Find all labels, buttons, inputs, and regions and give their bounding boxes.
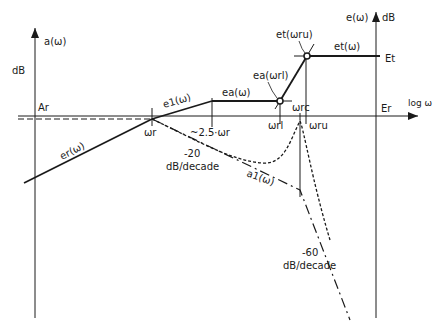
slope-60-value: -60 [302, 247, 318, 258]
omega-2-5-label: ~2.5·ωr [190, 127, 231, 138]
top-level-label: Et [385, 53, 395, 64]
omega-rc-label: ωrc [292, 102, 310, 113]
slope-20-value: -20 [184, 148, 200, 159]
right-axis-label: e(ω) [346, 12, 368, 23]
et-ru-label: et(ωru) [276, 29, 313, 40]
ea-label: ea(ω) [222, 87, 251, 98]
right-reference-label: Er [381, 103, 392, 114]
breakpoint-et-ru [304, 53, 310, 59]
omega-ru-label: ωru [309, 120, 328, 131]
leader-et-ru [299, 41, 305, 53]
breakpoint-ea-rl [277, 98, 283, 104]
diagram-canvas: a(ω) dB Ar e(ω) dB Et Er log ω ωr ~2.5·ω… [0, 0, 444, 334]
left-axis-unit: dB [12, 65, 25, 76]
e1-label: e1(ω) [162, 91, 193, 110]
frequency-axis-label: log ω [408, 98, 432, 108]
omega-r-label: ωr [144, 127, 157, 138]
bode-diagram: a(ω) dB Ar e(ω) dB Et Er log ω ωr ~2.5·ω… [0, 0, 444, 334]
a1-asymptote [152, 119, 350, 320]
left-axis-label: a(ω) [44, 36, 66, 47]
er-curve [24, 119, 152, 183]
leader-ea-rl [268, 82, 277, 98]
right-axis-unit: dB [382, 12, 395, 23]
ea-rl-label: ea(ωrl) [253, 70, 288, 81]
slope-20-unit: dB/decade [166, 161, 219, 172]
a1-actual-response [152, 119, 330, 240]
left-reference-label: Ar [38, 102, 50, 113]
slope-60-unit: dB/decade [283, 260, 336, 271]
omega-rl-label: ωrl [268, 120, 283, 131]
et-label: et(ω) [334, 41, 360, 52]
